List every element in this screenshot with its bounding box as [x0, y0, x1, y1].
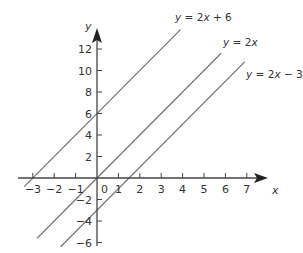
x-tick-label: 6 — [222, 183, 229, 196]
graph-canvas: −3−2−11234567 −6−4−224681012 x y 0 y = 2… — [0, 0, 303, 253]
x-tick-label: 4 — [179, 183, 186, 196]
line-label-2x-minus-3: y = 2x − 3 — [245, 68, 303, 80]
y-tick-label: 2 — [85, 151, 92, 164]
x-tick-label: 3 — [158, 183, 165, 196]
line-label-2x-plus-6: y = 2x + 6 — [174, 11, 232, 23]
y-axis-label: y — [84, 20, 92, 33]
y-tick-label: −4 — [76, 215, 92, 228]
x-tick-label: −3 — [25, 183, 41, 196]
x-ticks: −3−2−11234567 — [25, 173, 251, 196]
x-tick-label: 1 — [115, 183, 122, 196]
y-ticks: −6−4−224681012 — [76, 43, 102, 250]
line-label-2x: y = 2x — [222, 36, 258, 48]
y-tick-label: 6 — [85, 108, 92, 121]
y-tick-label: −6 — [76, 237, 92, 250]
x-tick-label: −2 — [46, 183, 62, 196]
y-tick-label: 12 — [78, 43, 92, 56]
axes — [18, 28, 268, 246]
y-tick-label: 4 — [85, 129, 92, 142]
x-tick-label: 5 — [201, 183, 208, 196]
plot-line-0 — [24, 30, 180, 187]
y-tick-label: 10 — [78, 65, 92, 78]
x-axis-label: x — [271, 184, 279, 197]
origin-label: 0 — [101, 183, 108, 196]
x-tick-label: 2 — [136, 183, 143, 196]
y-tick-label: 8 — [85, 86, 92, 99]
x-tick-label: 7 — [243, 183, 250, 196]
plotted-lines — [24, 30, 244, 247]
y-tick-label: −2 — [76, 194, 92, 207]
